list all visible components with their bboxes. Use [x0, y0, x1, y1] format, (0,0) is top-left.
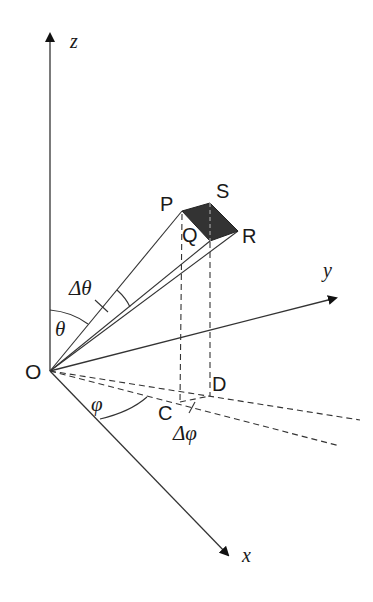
delta-phi-label: Δφ: [172, 421, 197, 445]
y-axis: [50, 298, 336, 371]
delta-theta-label: Δθ: [68, 276, 92, 300]
phi-label: φ: [91, 392, 103, 416]
x-axis: [50, 371, 228, 555]
phi-arc: [100, 397, 147, 419]
point-c-label: C: [158, 402, 172, 424]
x-axis-label: x: [241, 544, 251, 566]
delta-theta-tick: [95, 300, 108, 312]
point-p-label: P: [160, 193, 173, 215]
point-d-label: D: [212, 373, 226, 395]
point-q-label: Q: [182, 224, 198, 246]
z-axis-label: z: [69, 30, 78, 52]
delta-theta-arc: [117, 290, 130, 307]
spherical-coordinates-diagram: z y x O P S Q R C D θ Δθ φ Δφ: [0, 0, 373, 602]
point-r-label: R: [242, 225, 256, 247]
y-axis-label: y: [321, 259, 332, 282]
origin-label: O: [25, 360, 41, 383]
theta-label: θ: [55, 317, 65, 341]
point-s-label: S: [216, 180, 229, 202]
